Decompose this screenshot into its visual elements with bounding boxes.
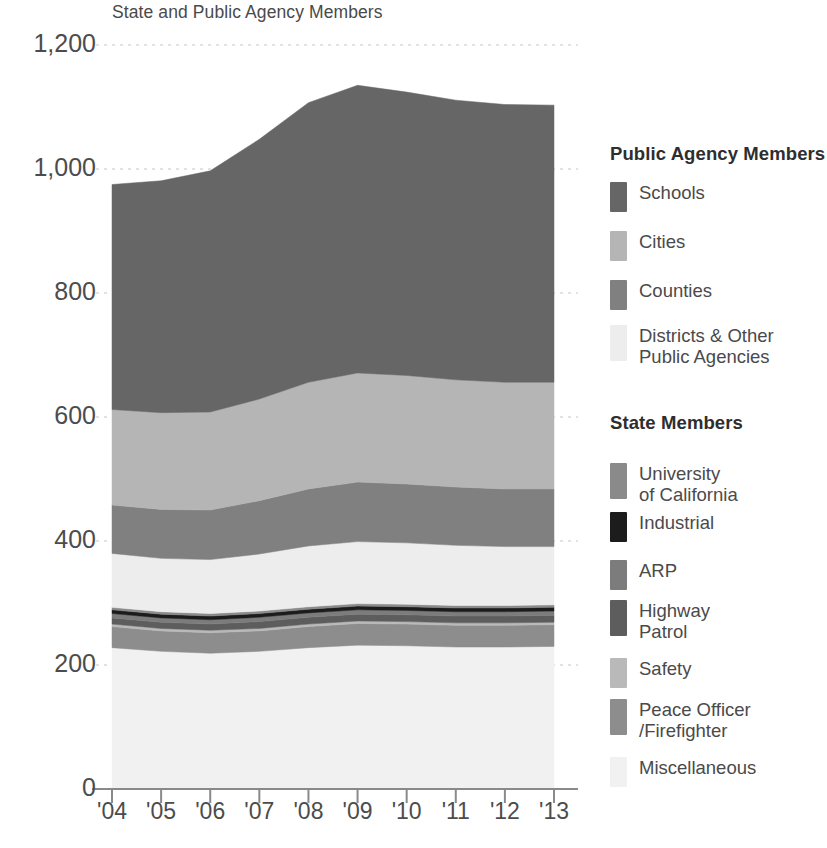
y-axis-tick-label: 1,200 [33,31,96,56]
legend-group-title-state-members: State Members [610,412,743,434]
legend-item-peace-officer-firefighter[interactable]: Peace Officer /Firefighter [610,699,751,742]
legend-item-label: Cities [639,231,685,252]
chart-legend: Public Agency MembersSchoolsCitiesCounti… [610,0,827,848]
legend-swatch-icon [610,463,627,499]
y-axis-tick-label: 800 [54,279,96,304]
plot-area: 1,2001,0008006004002000 '04'05'06'07'08'… [0,0,600,848]
x-axis-tick-label: '05 [146,798,176,825]
legend-item-miscellaneous[interactable]: Miscellaneous [610,757,756,787]
legend-swatch-icon [610,325,627,361]
legend-item-label: Safety [639,658,691,679]
y-axis-tick-label: 0 [82,775,96,800]
legend-item-highway-patrol[interactable]: Highway Patrol [610,600,710,643]
legend-swatch-icon [610,512,627,542]
legend-item-label: Miscellaneous [639,757,756,778]
x-axis-tick-label: '04 [97,798,127,825]
legend-item-industrial[interactable]: Industrial [610,512,714,542]
legend-item-label: Districts & Other Public Agencies [639,325,774,368]
legend-item-label: Schools [639,182,705,203]
legend-item-label: Industrial [639,512,714,533]
legend-item-counties[interactable]: Counties [610,280,712,310]
x-axis-tick-label: '12 [490,798,520,825]
area-series-schools [112,85,554,412]
x-axis-tick-label: '10 [392,798,422,825]
legend-item-university-of-california[interactable]: University of California [610,463,738,506]
legend-swatch-icon [610,560,627,590]
y-axis-tick-label: 400 [54,527,96,552]
legend-item-cities[interactable]: Cities [610,231,685,261]
legend-item-label: Counties [639,280,712,301]
x-axis-tick-label: '08 [293,798,323,825]
y-axis-tick-label: 200 [54,651,96,676]
area-series-miscellaneous [112,645,554,789]
legend-swatch-icon [610,600,627,636]
legend-swatch-icon [610,658,627,688]
legend-item-label: University of California [639,463,738,506]
x-axis-tick-label: '13 [539,798,569,825]
x-axis-tick-label: '07 [244,798,274,825]
legend-group-title-public-agency-members: Public Agency Members [610,143,825,165]
legend-item-label: ARP [639,560,677,581]
legend-swatch-icon [610,182,627,212]
legend-item-schools[interactable]: Schools [610,182,705,212]
legend-item-districts-other-public-agencies[interactable]: Districts & Other Public Agencies [610,325,774,368]
legend-swatch-icon [610,280,627,310]
y-axis-tick-label: 600 [54,403,96,428]
legend-swatch-icon [610,757,627,787]
chart-page: State and Public Agency Members 1,2001,0… [0,0,827,848]
legend-item-arp[interactable]: ARP [610,560,677,590]
legend-swatch-icon [610,231,627,261]
legend-item-safety[interactable]: Safety [610,658,691,688]
legend-item-label: Peace Officer /Firefighter [639,699,751,742]
legend-swatch-icon [610,699,627,735]
x-axis-tick-label: '09 [343,798,373,825]
x-axis-tick-label: '11 [442,798,470,825]
x-axis-tick-label: '06 [195,798,225,825]
legend-item-label: Highway Patrol [639,600,710,643]
y-axis-tick-label: 1,000 [33,155,96,180]
